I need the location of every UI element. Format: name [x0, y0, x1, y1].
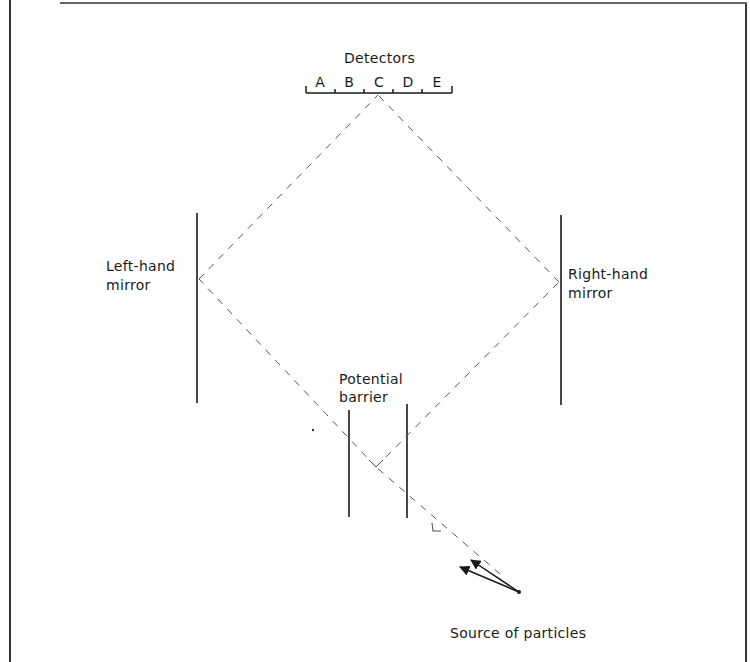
detector-slot-a: A [315, 74, 325, 90]
detector-slot-b: B [344, 74, 354, 90]
beam-direction-chevron [432, 523, 441, 531]
detectors-label: Detectors [344, 50, 415, 66]
detector-slot-e: E [433, 74, 442, 90]
split-point-marker [369, 460, 383, 467]
right-mirror-label: Right-hand mirror [568, 265, 648, 303]
left-mirror-label: Left-hand mirror [106, 257, 175, 295]
source-arrows [460, 560, 519, 592]
beam-paths [199, 95, 559, 574]
source-label: Source of particles [450, 625, 586, 641]
interferometer-diagram [0, 0, 750, 662]
diagram-frame: Detectors A B C D E Left-hand mirror Rig… [0, 0, 750, 662]
detector-slot-c: C [374, 74, 384, 90]
barrier-label: Potential barrier [339, 370, 403, 406]
stray-mark [312, 429, 314, 431]
detector-slot-d: D [403, 74, 414, 90]
source-point [517, 590, 521, 594]
